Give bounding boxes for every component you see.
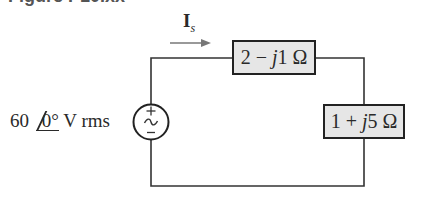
impedance-box-series: 2 − j1 Ω — [232, 40, 316, 75]
wire-bottom — [151, 139, 364, 186]
impedance-box-load: 1 + j5 Ω — [323, 104, 405, 139]
ac-voltage-source-icon — [134, 105, 169, 140]
source-label: 60 0° V rms — [10, 110, 110, 132]
wire-top-right — [316, 58, 364, 104]
wire-top-left — [151, 58, 232, 104]
circuit-wires — [0, 0, 424, 197]
phasor-angle: 0° — [36, 112, 59, 131]
current-arrow-icon — [170, 39, 211, 47]
current-label: Is — [183, 10, 195, 36]
